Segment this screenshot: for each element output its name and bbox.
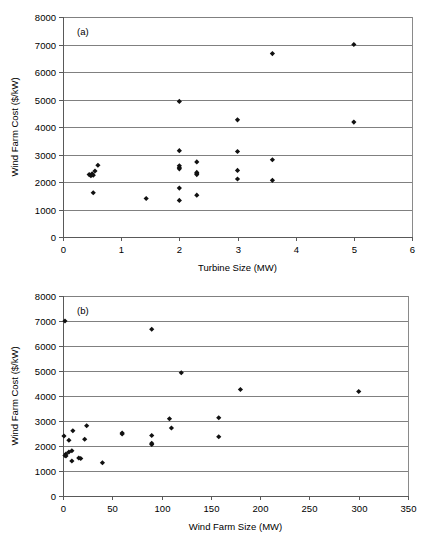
x-tick-label: 5 — [352, 244, 357, 255]
x-tick-label: 250 — [302, 503, 318, 514]
y-tick-label: 0 — [51, 491, 56, 502]
y-tick-label: 4000 — [35, 122, 56, 133]
data-point — [356, 389, 361, 394]
data-point — [194, 193, 199, 198]
data-point — [177, 148, 182, 153]
data-point — [149, 433, 154, 438]
y-tick-label: 1000 — [35, 466, 56, 477]
chart-panel-a: 0100020003000400050006000700080000123456… — [0, 0, 434, 280]
y-tick-label: 8000 — [35, 291, 56, 302]
x-axis-title: Turbine Size (MW) — [198, 262, 277, 273]
x-tick-label: 50 — [107, 503, 118, 514]
chart-panel-b: 0100020003000400050006000700080000501001… — [0, 280, 434, 558]
scatter-plot-b: 0100020003000400050006000700080000501001… — [0, 280, 434, 558]
y-axis-title: Wind Farm Cost ($/kW) — [9, 346, 20, 445]
data-point — [216, 434, 221, 439]
data-point — [351, 119, 356, 124]
y-tick-label: 5000 — [35, 95, 56, 106]
x-tick-label: 150 — [204, 503, 220, 514]
data-point — [120, 431, 125, 436]
x-tick-label: 6 — [410, 244, 415, 255]
x-tick-label: 350 — [401, 503, 417, 514]
data-point — [66, 438, 71, 443]
data-point — [91, 190, 96, 195]
y-tick-label: 2000 — [35, 177, 56, 188]
data-point — [351, 42, 356, 47]
data-point — [177, 185, 182, 190]
x-tick-label: 2 — [177, 244, 182, 255]
panel-label: (a) — [77, 26, 89, 37]
y-tick-label: 6000 — [35, 67, 56, 78]
y-tick-label: 5000 — [35, 366, 56, 377]
data-point — [235, 149, 240, 154]
data-point — [270, 51, 275, 56]
x-tick-label: 100 — [155, 503, 171, 514]
data-point — [194, 159, 199, 164]
data-point — [235, 176, 240, 181]
y-tick-label: 1000 — [35, 205, 56, 216]
y-tick-label: 8000 — [35, 12, 56, 23]
panel-label: (b) — [77, 305, 89, 316]
data-point — [100, 460, 105, 465]
y-tick-label: 2000 — [35, 441, 56, 452]
data-point — [95, 163, 100, 168]
x-tick-label: 200 — [253, 503, 269, 514]
y-tick-label: 7000 — [35, 40, 56, 51]
y-tick-label: 6000 — [35, 341, 56, 352]
x-tick-label: 3 — [236, 244, 241, 255]
y-tick-label: 3000 — [35, 150, 56, 161]
data-point — [270, 157, 275, 162]
y-tick-label: 4000 — [35, 391, 56, 402]
data-point — [169, 425, 174, 430]
x-tick-label: 1 — [119, 244, 124, 255]
x-axis-title: Wind Farm Size (MW) — [189, 521, 282, 532]
y-tick-label: 0 — [51, 232, 56, 243]
data-point — [235, 168, 240, 173]
data-point — [167, 416, 172, 421]
data-point — [179, 370, 184, 375]
x-tick-label: 0 — [61, 244, 66, 255]
data-point — [61, 433, 66, 438]
y-tick-label: 7000 — [35, 316, 56, 327]
y-tick-label: 3000 — [35, 416, 56, 427]
y-axis-title: Wind Farm Cost ($/kW) — [9, 77, 20, 176]
data-point — [82, 437, 87, 442]
data-point — [149, 327, 154, 332]
data-point — [70, 428, 75, 433]
x-tick-label: 0 — [61, 503, 66, 514]
data-point — [144, 196, 149, 201]
data-point — [177, 99, 182, 104]
data-point — [84, 423, 89, 428]
scatter-plot-a: 0100020003000400050006000700080000123456… — [0, 0, 434, 280]
data-point — [177, 198, 182, 203]
x-tick-label: 4 — [294, 244, 299, 255]
data-point — [216, 415, 221, 420]
data-point — [238, 387, 243, 392]
x-tick-label: 300 — [352, 503, 368, 514]
data-point — [69, 458, 74, 463]
figure-page: 0100020003000400050006000700080000123456… — [0, 0, 434, 558]
data-point — [235, 117, 240, 122]
